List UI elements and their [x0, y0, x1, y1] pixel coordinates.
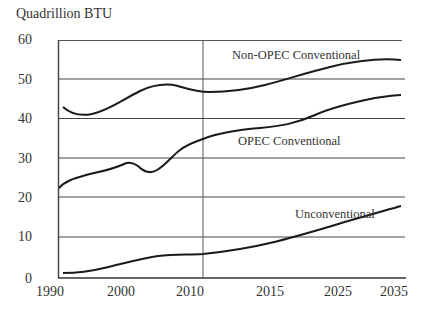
- series-line-opec: [59, 95, 401, 188]
- series-label-unconventional: Unconventional: [295, 207, 375, 222]
- series-label-non-opec: Non-OPEC Conventional: [232, 48, 360, 63]
- series-label-opec: OPEC Conventional: [238, 134, 340, 149]
- series-line-non-opec: [63, 59, 401, 115]
